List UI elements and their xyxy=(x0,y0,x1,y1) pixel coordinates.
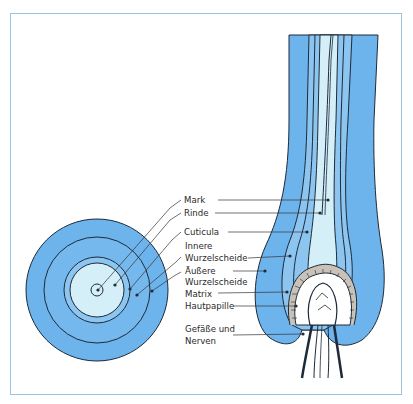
label-innere-2: Wurzelscheide xyxy=(185,252,247,264)
label-hautpapille: Hautpapille xyxy=(185,300,234,312)
label-cuticula: Cuticula xyxy=(184,226,219,238)
label-aeussere-2: Wurzelscheide xyxy=(185,276,247,288)
label-gefaesse-2: Nerven xyxy=(185,335,216,347)
hair-follicle-longitudinal xyxy=(255,35,384,378)
label-mark: Mark xyxy=(184,194,205,206)
label-rinde: Rinde xyxy=(184,207,209,219)
label-gefaesse-1: Gefäße und xyxy=(185,323,235,335)
label-innere-1: Innere xyxy=(185,240,212,252)
label-matrix: Matrix xyxy=(185,288,212,300)
